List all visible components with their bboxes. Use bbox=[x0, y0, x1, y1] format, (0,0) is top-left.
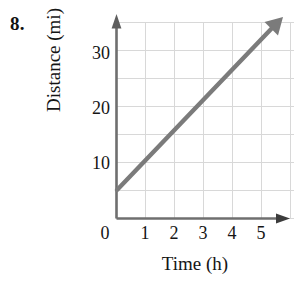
x-tick-label-5: 5 bbox=[248, 224, 274, 242]
x-tick-label-1: 1 bbox=[132, 224, 158, 242]
figure-container: 8. bbox=[0, 0, 296, 286]
x-tick-label-3: 3 bbox=[190, 224, 216, 242]
x-tick-label-0: 0 bbox=[92, 224, 118, 242]
y-axis-title: Distance (mi) bbox=[42, 0, 66, 135]
x-tick-label-4: 4 bbox=[219, 224, 245, 242]
x-tick-label-2: 2 bbox=[161, 224, 187, 242]
x-axis-title: Time (h) bbox=[100, 252, 290, 276]
